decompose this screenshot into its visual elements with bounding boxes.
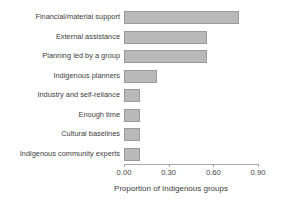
bar-row: External assistance: [124, 28, 258, 48]
x-tick-mark: [258, 164, 259, 167]
bar-row: Indigenous community experts: [124, 145, 258, 165]
bar-row: Industry and self-reliance: [124, 86, 258, 106]
bar-row: Planning led by a group: [124, 47, 258, 67]
x-tick-mark: [169, 164, 170, 167]
x-tick-label: 0.90: [251, 168, 266, 177]
bar: [124, 50, 207, 63]
bar: [124, 31, 207, 44]
bar-row: Enough time: [124, 106, 258, 126]
bar-chart: Financial/material support External assi…: [0, 0, 282, 205]
x-axis-title: Proportion of Indigenous groups: [0, 184, 282, 193]
x-tick-mark: [124, 164, 125, 167]
x-axis-line: [124, 164, 258, 165]
x-tick-label: 0.30: [161, 168, 176, 177]
bar: [124, 109, 140, 122]
bar-row: Indigenous planners: [124, 67, 258, 87]
category-label: Industry and self-reliance: [37, 88, 120, 102]
category-label: Indigenous community experts: [20, 147, 120, 161]
category-label: Cultural baselines: [61, 127, 120, 141]
bar: [124, 70, 157, 83]
plot-area: Financial/material support External assi…: [124, 8, 258, 164]
bar: [124, 11, 239, 24]
bar-row: Cultural baselines: [124, 125, 258, 145]
bar-row: Financial/material support: [124, 8, 258, 28]
x-tick-label: 0.00: [117, 168, 132, 177]
bar: [124, 89, 140, 102]
bar: [124, 148, 140, 161]
bar: [124, 128, 140, 141]
x-tick-label: 0.60: [206, 168, 221, 177]
category-label: Enough time: [79, 108, 121, 122]
category-label: Indigenous planners: [53, 69, 120, 83]
category-label: Financial/material support: [35, 10, 120, 24]
x-tick-mark: [213, 164, 214, 167]
category-label: Planning led by a group: [42, 49, 120, 63]
category-label: External assistance: [56, 30, 120, 44]
